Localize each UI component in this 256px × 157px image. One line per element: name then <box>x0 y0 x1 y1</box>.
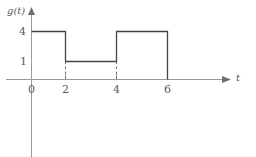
y-axis-label: g(t) <box>7 6 25 16</box>
x-tick-label-0: 0 <box>28 84 35 95</box>
x-axis-label: t <box>236 73 240 83</box>
y-tick-label-1: 1 <box>20 56 27 67</box>
y-tick-label-4: 4 <box>19 26 26 37</box>
x-tick-label-2: 2 <box>62 84 69 95</box>
y-axis-arrowhead <box>28 7 35 15</box>
step-function-curve <box>32 32 168 80</box>
x-tick-label-6: 6 <box>164 84 171 95</box>
x-axis-arrowhead <box>222 76 231 83</box>
x-tick-label-4: 4 <box>113 84 120 95</box>
plot-canvas <box>0 0 256 157</box>
step-function-figure: g(t) t 4 1 0 2 4 6 <box>0 0 256 157</box>
